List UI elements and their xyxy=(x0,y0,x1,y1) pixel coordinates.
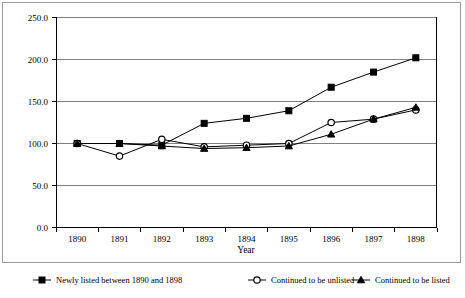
x-tick-label-1896: 1896 xyxy=(322,234,341,244)
x-tick-label-1893: 1893 xyxy=(195,234,214,244)
y-tick-label-50: 50.0 xyxy=(32,181,48,191)
data-point-0-5 xyxy=(286,108,292,114)
data-point-0-3 xyxy=(201,120,207,126)
data-point-0-4 xyxy=(244,115,250,121)
legend-label-0: Newly listed between 1890 and 1898 xyxy=(56,275,182,285)
data-point-0-7 xyxy=(371,69,377,75)
x-tick-label-1890: 1890 xyxy=(68,234,87,244)
data-point-0-6 xyxy=(328,84,334,90)
legend-item-1[interactable]: Continued to be unlisted xyxy=(248,275,355,285)
chart-container: 250.0 200.0 150.0 100.0 50.0 0.0 1890189… xyxy=(0,0,465,298)
x-axis-title: Year xyxy=(237,245,255,255)
legend-label-2: Continued to be listed xyxy=(375,275,451,285)
series-2 xyxy=(74,104,420,152)
x-tick-label-1892: 1892 xyxy=(153,234,171,244)
legend-marker-open-circle xyxy=(254,277,260,283)
series-1 xyxy=(74,107,419,160)
line-chart: 250.0 200.0 150.0 100.0 50.0 0.0 1890189… xyxy=(0,0,465,298)
x-tick-marks xyxy=(56,228,437,232)
x-tick-labels: 189018911892189318941895189618971898 xyxy=(68,234,425,244)
y-tick-label-100: 100.0 xyxy=(28,139,49,149)
legend-item-2[interactable]: Continued to be listed xyxy=(352,275,451,285)
legend-marker-filled-square xyxy=(39,277,45,283)
legend-label-1: Continued to be unlisted xyxy=(271,275,355,285)
x-tick-label-1895: 1895 xyxy=(280,234,299,244)
y-tick-label-0: 0.0 xyxy=(37,223,49,233)
y-tick-label-250: 250.0 xyxy=(28,13,49,23)
data-point-2-8 xyxy=(412,104,419,110)
x-tick-label-1898: 1898 xyxy=(407,234,426,244)
y-tick-label-200: 200.0 xyxy=(28,55,49,65)
chart-frame xyxy=(3,3,461,263)
data-point-1-6 xyxy=(328,119,334,125)
y-tick-marks xyxy=(52,18,56,228)
x-tick-label-1897: 1897 xyxy=(365,234,384,244)
chart-legend: Newly listed between 1890 and 1898Contin… xyxy=(33,275,451,285)
y-tick-label-150: 150.0 xyxy=(28,97,49,107)
y-tick-labels: 250.0 200.0 150.0 100.0 50.0 0.0 xyxy=(28,13,49,233)
x-tick-label-1891: 1891 xyxy=(111,234,129,244)
data-point-0-8 xyxy=(413,55,419,61)
legend-item-0[interactable]: Newly listed between 1890 and 1898 xyxy=(33,275,182,285)
data-point-1-1 xyxy=(116,153,122,159)
gridlines xyxy=(56,18,437,186)
x-tick-label-1894: 1894 xyxy=(238,234,257,244)
